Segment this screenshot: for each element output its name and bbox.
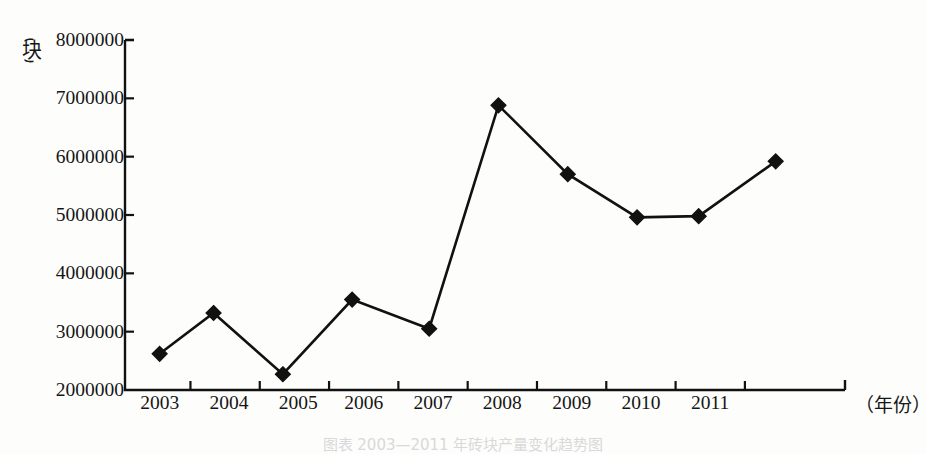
data-point-marker <box>630 210 645 225</box>
data-point-marker <box>422 321 437 336</box>
chart-plot-area <box>0 0 926 454</box>
figure-caption: 图表 2003—2011 年砖块产量变化趋势图 <box>0 437 926 452</box>
data-series-line <box>160 105 776 374</box>
data-point-markers <box>152 98 783 382</box>
line-chart-figure: （ 块 ） （年份） 20000003000000400000050000006… <box>0 0 926 454</box>
axes-group <box>125 40 845 390</box>
